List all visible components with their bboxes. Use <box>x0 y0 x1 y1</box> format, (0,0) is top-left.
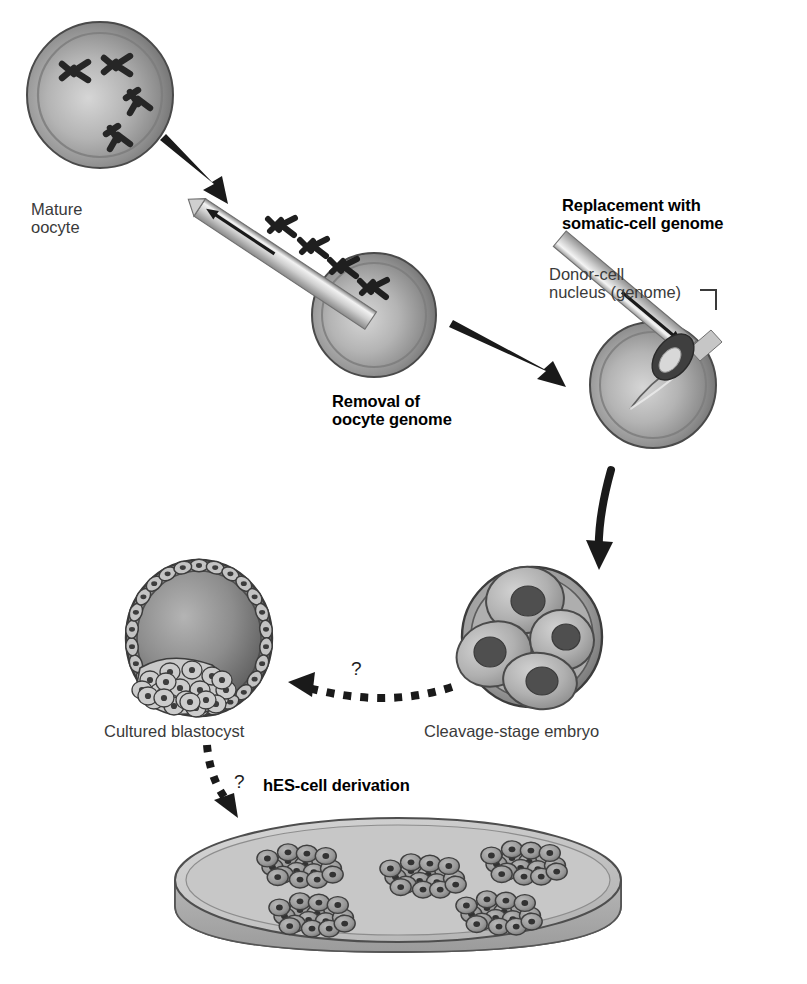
arrow-removal-to-replacement <box>449 320 566 387</box>
arrow-replacement-to-embryo <box>586 470 613 570</box>
suction-arrow-icon <box>203 204 277 258</box>
label-cultured-blastocyst: Cultured blastocyst <box>104 722 244 740</box>
label-replacement-with-somatic-cell-genome: Replacement with somatic-cell genome <box>562 196 723 233</box>
question-mark-blastocyst-to-dish: ? <box>234 772 245 791</box>
label-hes-cell-derivation: hES-cell derivation <box>263 776 410 794</box>
reconstructed-oocyte-cell <box>590 322 716 448</box>
cultured-blastocyst-cell <box>125 559 273 717</box>
extraction-pipette <box>182 191 387 329</box>
arrow-oocyte-to-removal <box>160 134 228 204</box>
label-mature-oocyte: Mature oocyte <box>31 200 82 237</box>
label-removal-of-oocyte-genome: Removal of oocyte genome <box>332 392 452 429</box>
label-cleavage-stage-embryo: Cleavage-stage embryo <box>424 722 599 740</box>
arrow-embryo-to-blastocyst <box>288 672 452 698</box>
cleavage-stage-embryo-cell <box>447 562 602 714</box>
question-mark-embryo-to-blastocyst: ? <box>351 659 362 678</box>
diagram-svg <box>0 0 807 984</box>
figure-canvas: Mature oocyte Removal of oocyte genome R… <box>0 0 807 984</box>
mature-oocyte-cell <box>27 22 173 168</box>
label-donor-cell-nucleus: Donor-cell nucleus (genome) <box>549 265 681 302</box>
donor-nucleus-leader-line <box>700 290 716 310</box>
hes-cell-dish <box>175 818 621 952</box>
